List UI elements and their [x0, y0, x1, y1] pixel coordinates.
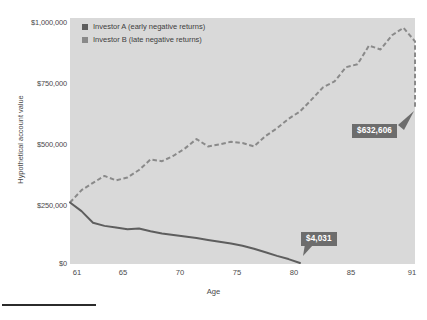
- callout-b-tail: [398, 111, 414, 130]
- series-investor-b: [70, 28, 415, 203]
- x-tick-85: 85: [331, 268, 371, 277]
- legend-label-investor-b: Investor B (late negative returns): [93, 35, 202, 44]
- legend-swatch-icon-investor-b: [82, 37, 88, 43]
- investor-b-end-callout: $632,606: [352, 124, 397, 138]
- chart-figure: $1,000,000 $750,000 $500,000 $250,000 $0…: [0, 0, 427, 320]
- series-investor-a: [70, 203, 300, 264]
- investor-a-end-callout: $4,031: [301, 232, 337, 246]
- x-tick-75: 75: [217, 268, 257, 277]
- x-tick-61: 61: [57, 268, 97, 277]
- y-tick-500000: $500,000: [3, 140, 67, 149]
- y-tick-0: $0: [3, 259, 67, 268]
- x-tick-91: 91: [392, 268, 427, 277]
- x-axis-title: Age: [0, 287, 427, 296]
- legend-item-investor-a: Investor A (early negative returns): [82, 21, 205, 32]
- y-tick-250000: $250,000: [3, 201, 67, 210]
- y-tick-750000: $750,000: [3, 79, 67, 88]
- legend-item-investor-b: Investor B (late negative returns): [82, 34, 205, 45]
- y-tick-1000000: $1,000,000: [3, 18, 67, 27]
- legend-swatch-icon-investor-a: [82, 24, 88, 30]
- footnote-separator: [2, 304, 96, 306]
- y-axis-title: Hypothetical account value: [16, 60, 25, 220]
- chart-legend: Investor A (early negative returns) Inve…: [82, 21, 205, 47]
- x-tick-65: 65: [103, 268, 143, 277]
- x-tick-80: 80: [274, 268, 314, 277]
- legend-label-investor-a: Investor A (early negative returns): [93, 22, 205, 31]
- x-tick-70: 70: [160, 268, 200, 277]
